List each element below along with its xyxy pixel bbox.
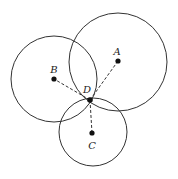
segment-dc xyxy=(90,100,92,133)
point-b xyxy=(51,76,56,81)
label-a: A xyxy=(112,46,120,57)
point-a xyxy=(115,58,120,63)
point-c xyxy=(89,130,94,135)
label-c: C xyxy=(88,140,96,151)
point-d xyxy=(87,97,93,103)
label-b: B xyxy=(49,64,57,75)
segment-da xyxy=(90,61,118,100)
label-d: D xyxy=(82,84,91,95)
circles-diagram: A B C D xyxy=(0,0,178,179)
